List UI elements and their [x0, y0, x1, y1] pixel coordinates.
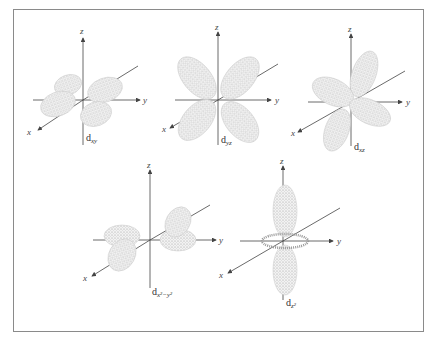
lobe — [171, 93, 223, 148]
orbital-dyz: z y x dyz — [161, 22, 279, 149]
x-axis-label: x — [290, 128, 295, 138]
orbital-caption: dz² — [286, 297, 297, 310]
z-axis-label: z — [79, 26, 84, 36]
orbital-caption: dxz — [354, 141, 365, 154]
lobe — [170, 50, 224, 106]
orbital-dxz: z y x dxz — [290, 24, 410, 155]
x-axis-label: x — [218, 270, 223, 280]
lobe — [273, 185, 297, 237]
orbital-caption: dyz — [221, 134, 232, 147]
orbital-dz2: z y x dz² — [218, 156, 341, 310]
orbital-caption: dx²−y² — [152, 286, 173, 299]
z-axis-label: z — [347, 24, 352, 34]
d-orbitals-diagram: z y x dxy z y x dyz z y x dxz — [0, 0, 436, 349]
orbital-dxy: z y x dxy — [26, 26, 147, 145]
orbital-dx2-y2: z y x dx²−y² — [82, 160, 223, 299]
y-axis-label: y — [142, 95, 147, 105]
lobe — [273, 245, 297, 295]
z-axis-label: z — [214, 22, 219, 32]
lobe — [84, 73, 126, 108]
y-axis-label: y — [336, 236, 341, 246]
x-axis-label: x — [82, 273, 87, 283]
x-axis-label: x — [26, 127, 31, 137]
y-axis-label: y — [218, 235, 223, 245]
orbital-caption: dxy — [86, 132, 98, 145]
y-axis-label: y — [405, 97, 410, 107]
y-axis-label: y — [274, 95, 279, 105]
z-axis-label: z — [279, 156, 284, 166]
lobe — [318, 105, 356, 155]
x-axis-label: x — [161, 124, 166, 134]
z-axis-label: z — [146, 160, 151, 170]
